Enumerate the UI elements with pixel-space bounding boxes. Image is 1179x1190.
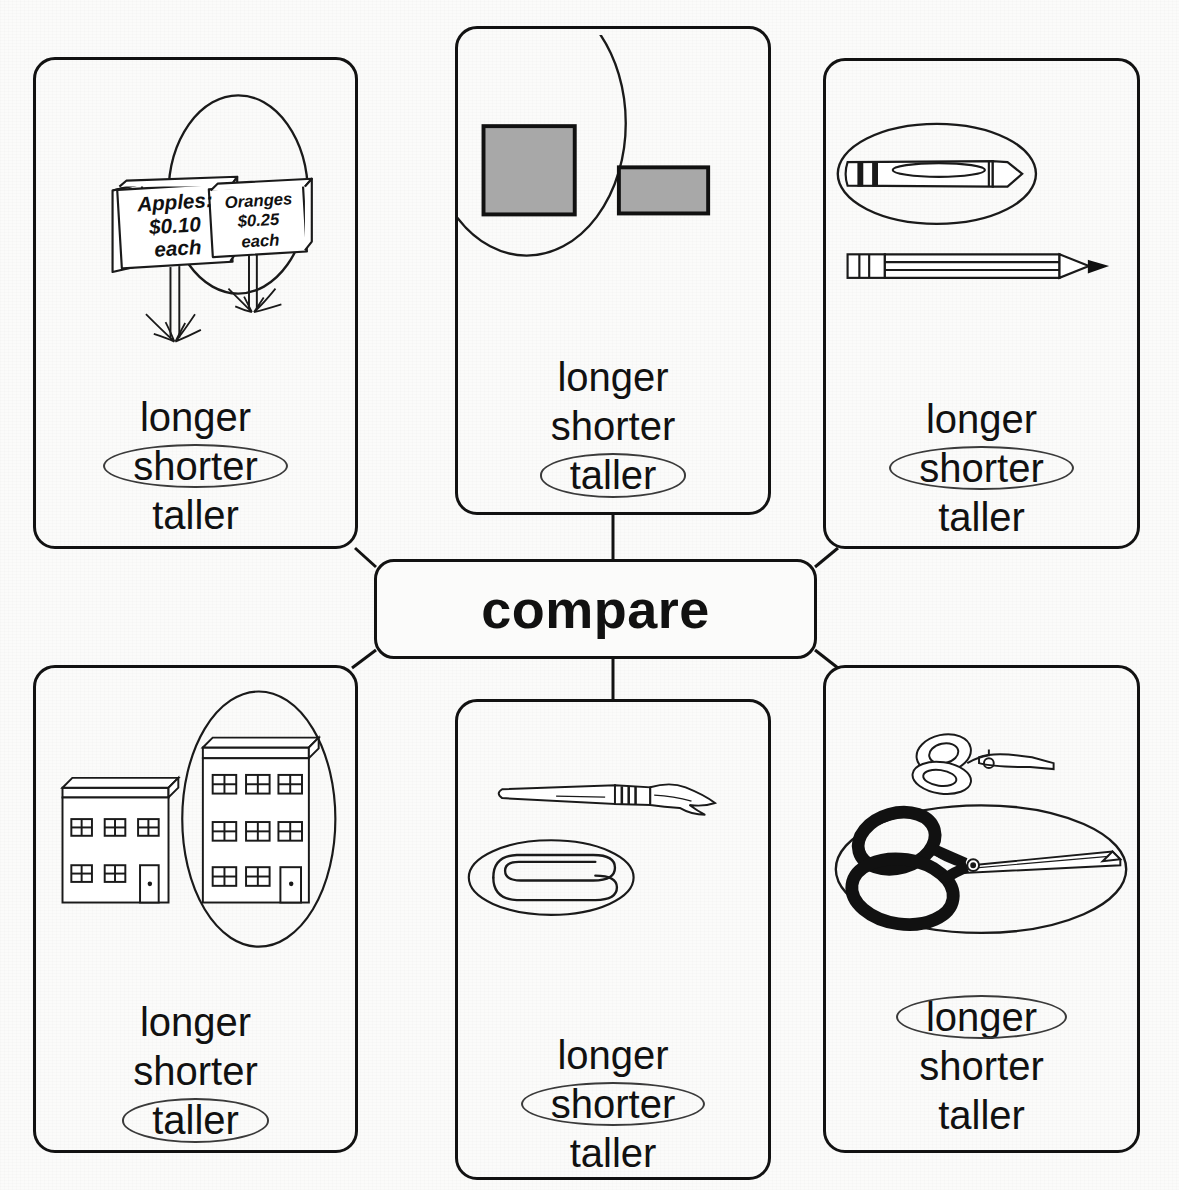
option-longer[interactable]: longer — [826, 993, 1137, 1042]
connector-bottom-right — [815, 650, 838, 668]
option-longer[interactable]: longer — [826, 395, 1137, 444]
options-brush-paperclip: longer shorter taller — [458, 1031, 768, 1179]
option-shorter[interactable]: shorter — [458, 1080, 768, 1129]
card-buildings[interactable]: longer shorter taller — [33, 665, 358, 1153]
oranges-sign-line3: each — [241, 230, 280, 251]
option-longer[interactable]: longer — [458, 1031, 768, 1080]
option-shorter[interactable]: shorter — [36, 1047, 355, 1096]
gray-square — [484, 126, 575, 214]
oranges-sign-line1: Oranges — [224, 189, 293, 212]
option-taller[interactable]: taller — [826, 493, 1137, 542]
option-taller[interactable]: taller — [458, 1129, 768, 1178]
option-shorter[interactable]: shorter — [36, 442, 355, 491]
gray-rectangle — [619, 167, 708, 213]
option-shorter[interactable]: shorter — [826, 1042, 1137, 1091]
option-longer[interactable]: longer — [36, 998, 355, 1047]
option-taller[interactable]: taller — [458, 451, 768, 500]
options-gray-shapes: longer shorter taller — [458, 353, 768, 501]
hub-compare[interactable]: compare — [374, 559, 817, 659]
apples-sign-line3: each — [154, 235, 202, 261]
option-shorter[interactable]: shorter — [826, 444, 1137, 493]
oranges-sign-line2: $0.25 — [236, 210, 280, 232]
options-crayon-pencil: longer shorter taller — [826, 395, 1137, 543]
card-price-signs[interactable]: Apples: $0.10 each Oranges $0.25 each lo… — [33, 57, 358, 549]
connector-top-left — [355, 548, 376, 567]
worksheet-page: Apples: $0.10 each Oranges $0.25 each lo… — [0, 0, 1179, 1190]
option-taller[interactable]: taller — [36, 1096, 355, 1145]
scissors-illustration — [826, 674, 1137, 974]
card-crayon-pencil[interactable]: longer shorter taller — [823, 58, 1140, 549]
option-taller[interactable]: taller — [36, 491, 355, 540]
option-longer[interactable]: longer — [458, 353, 768, 402]
options-price-signs: longer shorter taller — [36, 393, 355, 541]
options-buildings: longer shorter taller — [36, 998, 355, 1146]
option-taller[interactable]: taller — [826, 1091, 1137, 1140]
options-scissors: longer shorter taller — [826, 993, 1137, 1141]
hub-label: compare — [481, 582, 710, 636]
gray-shapes-illustration — [458, 35, 768, 335]
brush-paperclip-illustration — [458, 710, 768, 1000]
buildings-illustration — [36, 674, 355, 974]
crayon-pencil-illustration — [826, 69, 1137, 369]
connector-bottom-left — [352, 650, 376, 668]
option-longer[interactable]: longer — [36, 393, 355, 442]
card-gray-shapes[interactable]: longer shorter taller — [455, 26, 771, 515]
connector-top-right — [815, 548, 838, 567]
apples-sign-line1: Apples: — [136, 188, 214, 216]
card-scissors[interactable]: longer shorter taller — [823, 665, 1140, 1153]
price-signs-illustration: Apples: $0.10 each Oranges $0.25 each — [36, 68, 355, 368]
card-brush-paperclip[interactable]: longer shorter taller — [455, 699, 771, 1180]
option-shorter[interactable]: shorter — [458, 402, 768, 451]
